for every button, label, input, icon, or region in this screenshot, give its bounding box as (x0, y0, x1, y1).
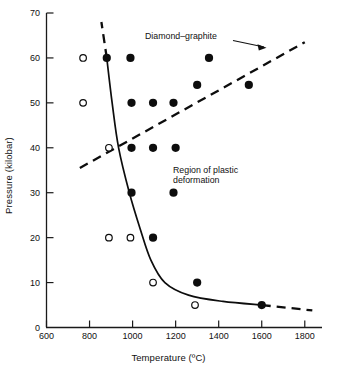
data-point-open (127, 234, 134, 241)
y-tick-label: 40 (14, 143, 40, 153)
diamond-graphite-label: Diamond–graphite (145, 31, 217, 41)
x-tick-label: 1000 (123, 331, 143, 341)
plastic-region-label-line1: Region of plastic (173, 165, 238, 175)
x-tick-label: 600 (39, 331, 54, 341)
plastic-boundary-extension (262, 305, 313, 310)
data-point-filled (103, 54, 111, 62)
x-tick-label: 1800 (295, 331, 315, 341)
diamond-graphite-arrow-icon (233, 41, 267, 51)
data-point-filled (127, 144, 135, 152)
y-tick-label: 50 (14, 98, 40, 108)
data-point-filled (149, 99, 157, 107)
diamond-graphite-equilibrium (80, 42, 305, 168)
y-tick-label: 70 (14, 8, 40, 18)
y-axis-title: Pressure (kilobar) (3, 116, 14, 236)
y-tick-label: 20 (14, 233, 40, 243)
data-point-filled (169, 189, 177, 197)
chart-canvas (0, 0, 337, 374)
data-point-open (80, 55, 87, 62)
plastic-boundary-upper-extension (101, 22, 106, 58)
x-tick-label: 1600 (252, 331, 272, 341)
x-tick-label: 1400 (209, 331, 229, 341)
x-axis-title: Temperature (ºC) (0, 352, 337, 363)
data-point-open (106, 234, 113, 241)
plastic-region-label: Region of plastic deformation (173, 165, 238, 186)
data-point-filled (127, 189, 135, 197)
data-point-filled (126, 54, 134, 62)
y-tick-label: 0 (14, 323, 40, 333)
data-point-filled (258, 301, 266, 309)
data-point-filled (205, 54, 213, 62)
data-point-open (80, 100, 87, 107)
data-point-filled (245, 81, 253, 89)
y-tick-label: 10 (14, 278, 40, 288)
x-axis-ticks (47, 321, 305, 328)
diamond-graphite-pressure-temperature-chart: 60080010001200140016001800 0102030405060… (0, 0, 337, 374)
x-tick-label: 800 (82, 331, 97, 341)
data-point-filled (172, 144, 180, 152)
data-point-open (192, 302, 199, 309)
data-point-filled (169, 99, 177, 107)
data-point-filled (127, 99, 135, 107)
data-point-filled (149, 144, 157, 152)
data-point-filled (193, 81, 201, 89)
y-axis-ticks (47, 13, 54, 283)
y-tick-label: 60 (14, 53, 40, 63)
data-point-filled (193, 278, 201, 286)
data-point-open (106, 144, 113, 151)
data-point-filled (149, 234, 157, 242)
x-tick-label: 1200 (166, 331, 186, 341)
data-point-open (150, 279, 157, 286)
plastic-region-label-line2: deformation (173, 175, 219, 185)
y-tick-label: 30 (14, 188, 40, 198)
